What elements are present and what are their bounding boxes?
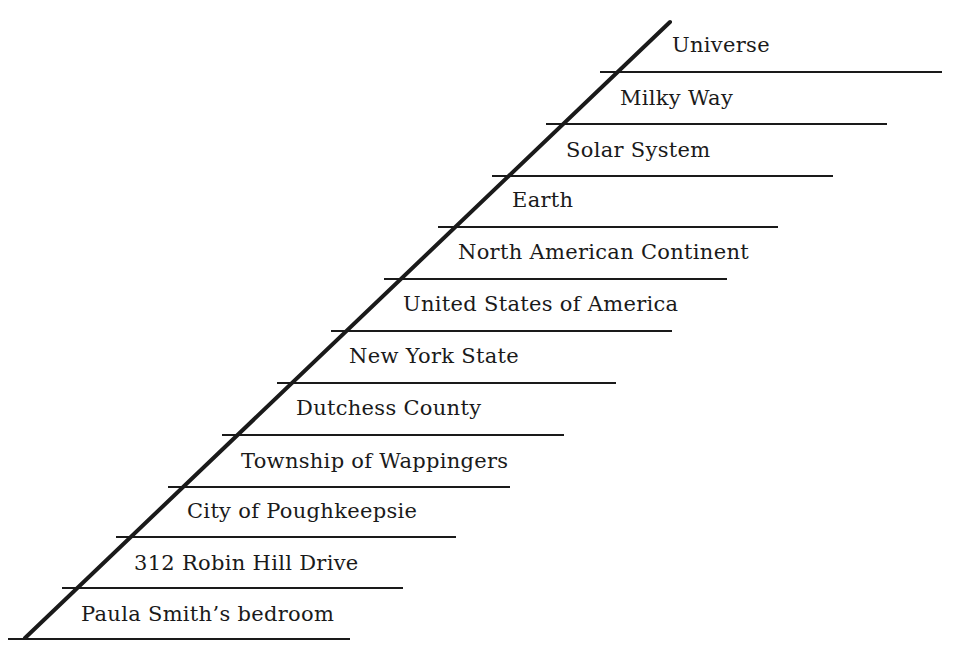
level-label: Earth [512,190,573,211]
level-label: New York State [349,346,519,367]
level-label: United States of America [403,294,678,315]
level-label: Dutchess County [296,398,481,419]
level-label: North American Continent [458,242,749,263]
level-label: Paula Smith’s bedroom [81,604,334,625]
level-label: Township of Wappingers [241,451,508,472]
hierarchy-ladder-diagram: UniverseMilky WaySolar SystemEarthNorth … [0,0,963,656]
level-label: Solar System [566,140,710,161]
level-label: 312 Robin Hill Drive [134,553,359,574]
level-label: Milky Way [620,88,733,109]
level-label: City of Poughkeepsie [187,501,417,522]
level-label: Universe [672,35,770,56]
